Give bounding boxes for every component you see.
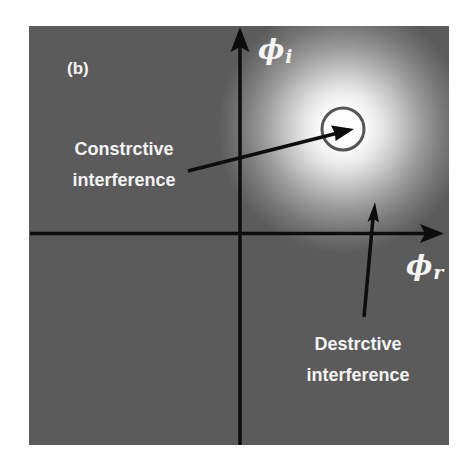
destructive-arrow — [364, 202, 379, 317]
axis-subscript: i — [285, 45, 292, 67]
constructive-label-line1: Constrctive — [44, 134, 204, 165]
axis-label-phi-r: ϕr — [406, 252, 443, 282]
constructive-label-line2: interference — [44, 165, 204, 196]
horizontal-axis — [30, 224, 444, 243]
constructive-interference-label: Constrctive interference — [44, 134, 204, 196]
vertical-axis — [231, 27, 250, 445]
axis-symbol: ϕ — [258, 33, 284, 66]
destructive-label-line2: interference — [294, 360, 422, 391]
constructive-arrow — [188, 126, 354, 172]
axis-label-phi-i: ϕi — [258, 36, 293, 66]
axis-symbol: ϕ — [406, 249, 432, 282]
destructive-interference-label: Destrctive interference — [294, 329, 422, 391]
panel-label: (b) — [67, 59, 89, 79]
destructive-label-line1: Destrctive — [294, 329, 422, 360]
axis-subscript: r — [433, 261, 443, 283]
